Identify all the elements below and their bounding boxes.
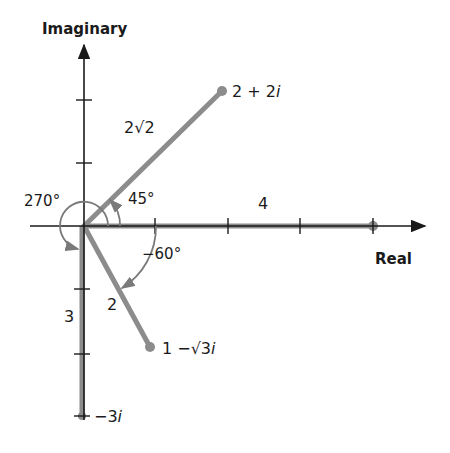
point-2-plus-2i: [217, 86, 227, 96]
modulus-2sqrt2: 2√2: [124, 120, 155, 136]
label-2-plus-2i: 2 + 2i: [232, 84, 280, 100]
modulus-2: 2: [107, 297, 117, 313]
vector-1-minus-sqrt3i: [84, 226, 150, 347]
point-label-text: −3: [94, 407, 118, 426]
point-label-text: 1 −√3: [162, 339, 211, 358]
angle-label-45: 45°: [128, 192, 155, 207]
modulus-3: 3: [64, 309, 74, 325]
arc-45: [110, 200, 120, 226]
vectors: [78, 86, 378, 420]
point-label-text: 2 + 2: [232, 82, 276, 101]
modulus-4: 4: [258, 196, 268, 212]
complex-plane-diagram: [0, 0, 450, 453]
y-axis-label: Imaginary: [42, 22, 127, 37]
imag-unit: i: [118, 407, 122, 426]
angle-label-minus-60: −60°: [142, 247, 181, 262]
label-1-minus-sqrt3i: 1 −√3i: [162, 341, 216, 357]
angle-label-270: 270°: [24, 194, 60, 209]
imag-unit: i: [211, 339, 215, 358]
point-1-minus-sqrt3i: [145, 342, 155, 352]
label-minus-3i: −3i: [94, 409, 122, 425]
x-axis-label: Real: [375, 252, 412, 267]
imag-unit: i: [276, 82, 280, 101]
